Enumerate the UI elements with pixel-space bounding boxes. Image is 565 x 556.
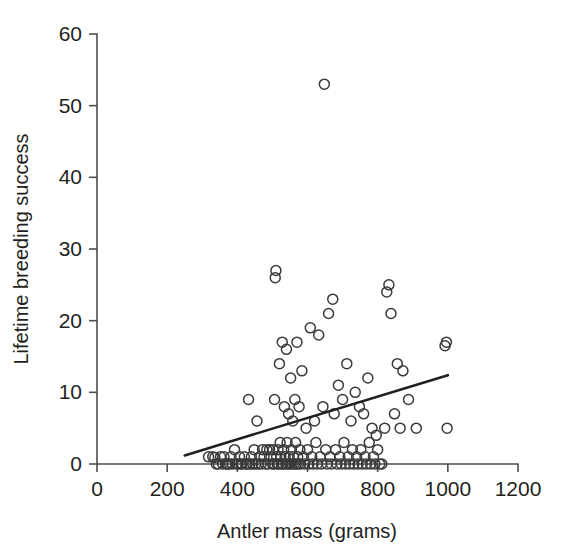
- scatter-point: [271, 266, 281, 276]
- scatter-point: [252, 416, 262, 426]
- x-tick-label: 600: [290, 477, 325, 500]
- scatter-point: [333, 380, 343, 390]
- scatter-point: [386, 309, 396, 319]
- scatter-point: [314, 330, 324, 340]
- scatter-point: [411, 423, 421, 433]
- scatter-point: [350, 387, 360, 397]
- x-tick-label: 800: [360, 477, 395, 500]
- axis-spines: [97, 34, 518, 464]
- scatter-point: [342, 359, 352, 369]
- y-tick-label: 0: [70, 452, 82, 475]
- scatter-point: [339, 438, 349, 448]
- scatter-point: [305, 323, 315, 333]
- scatter-point: [270, 395, 280, 405]
- scatter-point: [392, 359, 402, 369]
- scatter-point: [274, 359, 284, 369]
- scatter-point: [384, 280, 394, 290]
- scatter-point: [286, 373, 296, 383]
- y-tick-label: 50: [59, 94, 82, 117]
- plot-canvas: 020040060080010001200 0102030405060 Antl…: [0, 0, 565, 556]
- scatter-point: [301, 423, 311, 433]
- scatter-point: [395, 423, 405, 433]
- scatter-point: [338, 395, 348, 405]
- x-tick-label: 1200: [495, 477, 542, 500]
- scatter-point: [324, 309, 334, 319]
- scatter-point: [398, 366, 408, 376]
- scatter-point: [311, 438, 321, 448]
- x-tick-label: 1000: [424, 477, 471, 500]
- scatter-point: [363, 373, 373, 383]
- y-tick-label: 10: [59, 380, 82, 403]
- scatter-point: [380, 423, 390, 433]
- regression-line: [185, 375, 448, 455]
- scatter-point: [297, 366, 307, 376]
- x-tick-label: 0: [91, 477, 103, 500]
- regression-fit-line: [185, 375, 448, 455]
- x-axis-title: Antler mass (grams): [217, 520, 397, 542]
- y-tick-label: 20: [59, 309, 82, 332]
- scatter-point: [442, 423, 452, 433]
- scatter-point: [441, 337, 451, 347]
- scatter-point: [328, 294, 338, 304]
- scatter-plot-figure: 020040060080010001200 0102030405060 Antl…: [0, 0, 565, 556]
- scatter-point: [346, 416, 356, 426]
- scatter-point: [390, 409, 400, 419]
- x-tick-label: 400: [220, 477, 255, 500]
- scatter-point: [292, 337, 302, 347]
- y-axis-title: Lifetime breeding success: [10, 133, 32, 364]
- y-tick-label: 40: [59, 165, 82, 188]
- y-axis-ticks: [89, 34, 97, 464]
- y-tick-label: 30: [59, 237, 82, 260]
- y-axis-tick-labels: 0102030405060: [59, 22, 82, 475]
- scatter-point: [382, 287, 392, 297]
- scatter-point: [404, 395, 414, 405]
- x-tick-label: 200: [150, 477, 185, 500]
- x-axis-tick-labels: 020040060080010001200: [91, 477, 541, 500]
- scatter-point: [244, 395, 254, 405]
- scatter-point: [318, 402, 328, 412]
- y-tick-label: 60: [59, 22, 82, 45]
- scatter-point: [319, 79, 329, 89]
